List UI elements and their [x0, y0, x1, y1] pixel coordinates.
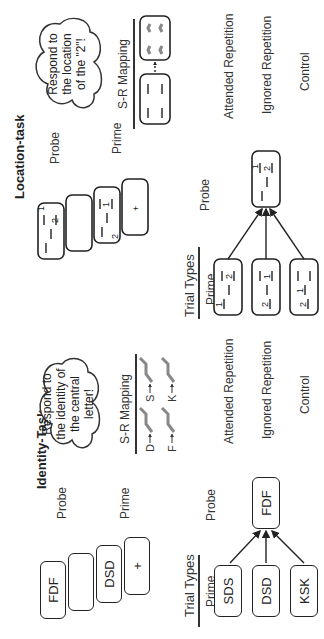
sr-mapping-title: S-R Mapping: [116, 39, 130, 109]
identity-task-panel: Identity-Task FDF DSD + Probe Prime Resp…: [0, 320, 324, 639]
sr-mapping-rule: [133, 19, 135, 129]
frame-text: +: [130, 562, 145, 570]
svg-text:S: S: [144, 395, 156, 402]
svg-text:D: D: [144, 444, 156, 452]
svg-text:+: +: [131, 206, 141, 211]
location-task-panel: Location-task 12 21 + Probe Prime: [0, 0, 324, 319]
ignored-repetition-label: Ignored Repetition: [260, 16, 274, 114]
trial-types-rule: [198, 555, 200, 627]
sr-mapping-title: S-R Mapping: [118, 374, 132, 444]
svg-text:1: 1: [214, 302, 224, 307]
sr-mapping-graphic: D S F K: [138, 344, 182, 454]
trial-types-title: Trial Types: [182, 554, 197, 617]
sr-mapping-rule: [135, 354, 137, 454]
trial-probe-label: Probe: [198, 179, 212, 211]
frame-text: FDF: [46, 577, 61, 602]
svg-text:2: 2: [50, 218, 60, 223]
svg-text:1: 1: [295, 288, 305, 293]
svg-text:2: 2: [262, 166, 272, 171]
instruction-line: of the "2"!: [74, 19, 88, 109]
svg-text:2: 2: [110, 234, 120, 239]
probe-label: Probe: [48, 132, 62, 164]
probe-text: FDF: [259, 490, 274, 515]
svg-text:F: F: [166, 445, 178, 452]
experiment-figure: Identity-Task FDF DSD + Probe Prime Resp…: [0, 0, 324, 639]
sequence-frame-probe: FDF: [40, 561, 66, 619]
svg-text:2: 2: [260, 302, 270, 307]
instruction-line: letter!: [82, 359, 96, 449]
trial-probe-label: Probe: [204, 489, 218, 521]
svg-text:1: 1: [262, 274, 272, 279]
svg-text:K: K: [166, 394, 178, 402]
probe-label: Probe: [55, 487, 69, 519]
location-task-title: Location-task: [12, 114, 27, 199]
prime-text: KSK: [297, 578, 312, 604]
attended-repetition-label: Attended Repetition: [222, 14, 236, 119]
svg-text:2: 2: [224, 274, 234, 279]
ignored-repetition-label: Ignored Repetition: [260, 341, 274, 439]
attended-repetition-label: Attended Repetition: [222, 339, 236, 444]
location-instruction: Respond to the location of the "2"!: [46, 19, 88, 109]
sequence-frame-blank: [68, 553, 94, 611]
svg-text:1: 1: [250, 164, 260, 169]
prime-box-attended: SDS: [214, 565, 242, 617]
sequence-frame-prime: DSD: [96, 545, 122, 603]
prime-label: Prime: [118, 488, 132, 519]
probe-box: FDF: [252, 477, 280, 529]
location-sr-mapping-graphic: [138, 14, 178, 124]
location-trial-types-graphic: 12 21 21 12: [212, 139, 324, 319]
instruction-line: Respond to: [46, 19, 60, 109]
prime-text: DSD: [259, 577, 274, 604]
instruction-line: the identity of: [54, 359, 68, 449]
location-sequence: 12 21 +: [36, 169, 161, 259]
trial-arrows: [220, 525, 310, 565]
instruction-line: Respond to: [40, 359, 54, 449]
instruction-line: the central: [68, 359, 82, 449]
svg-text:1: 1: [36, 206, 46, 211]
prime-box-ignored: DSD: [252, 565, 280, 617]
trial-types-title: Trial Types: [182, 254, 197, 317]
prime-label: Prime: [110, 123, 124, 154]
prime-box-control: KSK: [290, 565, 318, 617]
identity-instruction: Respond to the identity of the central l…: [40, 359, 96, 449]
svg-text:1: 1: [101, 202, 111, 207]
instruction-line: the location: [60, 19, 74, 109]
trial-types-rule: [198, 247, 200, 319]
frame-text: DSD: [102, 560, 117, 587]
sequence-frame-fixation: +: [124, 537, 150, 595]
prime-text: SDS: [221, 578, 236, 605]
control-label: Control: [298, 52, 312, 91]
svg-text:2: 2: [298, 302, 308, 307]
control-label: Control: [298, 375, 312, 414]
